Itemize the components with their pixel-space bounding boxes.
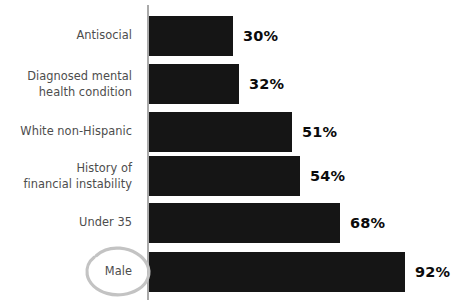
category-label: History of financial instability — [0, 161, 132, 192]
bar-value-label: 30% — [243, 28, 278, 44]
bar-value-label: 92% — [415, 264, 450, 280]
bar-row: Under 35 68% — [0, 203, 471, 243]
category-label: Antisocial — [0, 28, 132, 44]
bar-row: Antisocial 30% — [0, 16, 471, 56]
category-label: Under 35 — [0, 215, 132, 231]
bar-value-label: 51% — [302, 124, 337, 140]
bar — [149, 64, 239, 104]
bar — [149, 203, 340, 243]
category-label: White non-Hispanic — [0, 124, 132, 140]
category-label: Diagnosed mental health condition — [0, 69, 132, 100]
bar-row: History of financial instability 54% — [0, 156, 471, 196]
bar-row: White non-Hispanic 51% — [0, 112, 471, 152]
bar-row: Male 92% — [0, 252, 471, 292]
category-label: Male — [0, 264, 132, 280]
bar — [149, 112, 292, 152]
bar-chart: Antisocial 30% Diagnosed mental health c… — [0, 0, 471, 305]
bar — [149, 16, 233, 56]
bar — [149, 252, 405, 292]
bar — [149, 156, 300, 196]
bar-row: Diagnosed mental health condition 32% — [0, 64, 471, 104]
bar-value-label: 68% — [350, 215, 385, 231]
bar-value-label: 32% — [249, 76, 284, 92]
bar-value-label: 54% — [310, 168, 345, 184]
